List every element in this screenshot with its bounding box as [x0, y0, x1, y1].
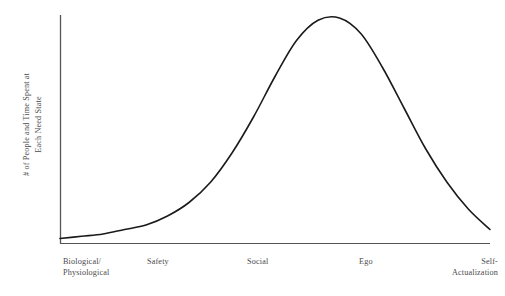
x-tick-label-safety: Safety — [147, 256, 169, 267]
y-axis-label-line-2: Each Need State — [33, 72, 45, 175]
bell-curve-plot — [0, 0, 505, 296]
x-tick-label-line-2: Actualization — [398, 267, 498, 278]
axes — [60, 15, 490, 244]
x-tick-label-social: Social — [247, 256, 268, 267]
x-tick-label-self-actualization: Self- Actualization — [398, 256, 498, 278]
x-tick-label-line-1: Self- — [398, 256, 498, 267]
y-axis-label-line-1: # of People and Time Spent at — [22, 72, 34, 175]
y-axis-label: # of People and Time Spent at Each Need … — [16, 18, 50, 230]
x-tick-label-line-1: Biological/ — [63, 256, 110, 267]
chart-container: # of People and Time Spent at Each Need … — [0, 0, 505, 296]
x-tick-label-line-1: Social — [247, 256, 268, 267]
need-state-curve — [60, 17, 490, 239]
x-tick-label-ego: Ego — [359, 256, 373, 267]
x-tick-label-line-1: Safety — [147, 256, 169, 267]
x-tick-label-line-1: Ego — [359, 256, 373, 267]
x-tick-label-biological-physiological: Biological/ Physiological — [63, 256, 110, 278]
x-tick-label-line-2: Physiological — [63, 267, 110, 278]
